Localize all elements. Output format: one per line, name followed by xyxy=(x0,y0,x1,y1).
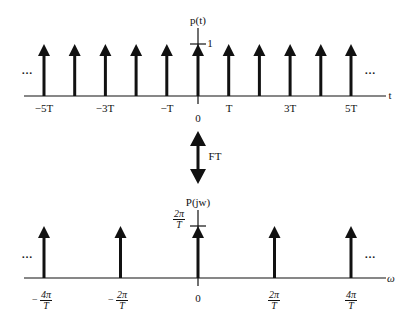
impulse-train-bottom xyxy=(38,226,357,278)
diagram-graphics xyxy=(0,0,415,331)
tick-label: 2π T xyxy=(268,290,280,311)
origin-label-top: 0 xyxy=(195,112,201,124)
top-axis xyxy=(24,28,386,104)
p-t-label: p(t) xyxy=(190,14,206,26)
tick-label: 3T xyxy=(284,102,296,114)
impulse-train-top xyxy=(38,44,357,96)
origin-label-bottom: 0 xyxy=(195,292,201,304)
tick-label: 4π T xyxy=(345,290,357,311)
tick-label: − 4π T xyxy=(40,290,52,311)
unit-tick-label: 1 xyxy=(207,37,213,49)
bottom-axis xyxy=(24,210,386,286)
tick-label: −3T xyxy=(96,102,114,114)
left-ellipsis: … xyxy=(22,64,33,76)
P-jw-label: P(jw) xyxy=(186,196,210,208)
ft-double-arrow xyxy=(190,131,206,184)
tick-label: − 2π T xyxy=(116,290,128,311)
tick-label: −T xyxy=(161,102,174,114)
right-ellipsis: … xyxy=(365,64,376,76)
t-axis-label: t xyxy=(388,89,391,101)
omega-axis-label: ω xyxy=(387,272,395,284)
tick-label: −5T xyxy=(35,102,53,114)
tick-label: 5T xyxy=(345,102,357,114)
right-ellipsis: … xyxy=(365,248,376,260)
tick-label: T xyxy=(226,102,233,114)
ft-label: FT xyxy=(209,150,222,162)
left-ellipsis: … xyxy=(22,248,33,260)
height-label: 2π T xyxy=(173,209,185,230)
